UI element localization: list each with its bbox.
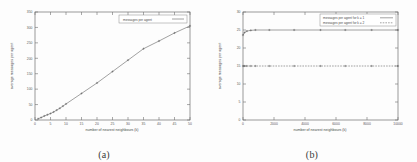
- x-tick-label: 0: [34, 122, 36, 126]
- y-tick-label: 100: [27, 87, 33, 91]
- x-tick-label: 50: [188, 122, 192, 126]
- y-tick-label: 0: [31, 118, 33, 122]
- plot-a: 050100150200250300350 051015202530354045…: [0, 0, 208, 140]
- data-point: [268, 65, 270, 67]
- series-line-a: [38, 26, 190, 119]
- legend-a: messages per agent: [119, 15, 187, 23]
- y-tick-label: 250: [27, 41, 33, 45]
- caption-b: (b): [208, 149, 416, 160]
- data-point: [246, 65, 248, 67]
- x-tick-label: 5: [50, 122, 52, 126]
- x-axis-a: 05101520253035404550: [34, 12, 192, 126]
- data-point: [344, 65, 346, 67]
- y-tick-label: 10: [237, 82, 241, 86]
- y-tick-label: 350: [27, 10, 33, 14]
- data-point: [293, 29, 295, 31]
- figure-container: 050100150200250300350 051015202530354045…: [0, 0, 417, 162]
- x-axis-title-a: number of nearest neighbours (k): [85, 128, 138, 132]
- y-tick-label: 200: [27, 57, 33, 61]
- chart-b-svg: 051015202530 0200040006000800010000 mess…: [208, 0, 416, 140]
- data-point: [397, 65, 399, 67]
- x-tick-label: 10000: [393, 122, 403, 126]
- plot-b: 051015202530 0200040006000800010000 mess…: [208, 0, 416, 140]
- legend-b: messages per agent for k = 1 messages pe…: [320, 14, 396, 26]
- plot-frame-a: [35, 12, 190, 120]
- y-tick-label: 300: [27, 26, 33, 30]
- x-tick-label: 6000: [332, 122, 340, 126]
- y-tick-label: 25: [237, 28, 241, 32]
- x-tick-label: 40: [157, 122, 161, 126]
- x-tick-label: 2000: [270, 122, 278, 126]
- data-point: [254, 65, 256, 67]
- data-point: [46, 114, 48, 116]
- data-point: [293, 65, 295, 67]
- data-point: [49, 112, 51, 114]
- y-tick-label: 150: [27, 72, 33, 76]
- y-axis-b: 051015202530: [237, 10, 398, 122]
- legend-label-b-0: messages per agent for k = 1: [323, 16, 365, 20]
- x-tick-label: 45: [173, 122, 177, 126]
- data-point: [37, 118, 39, 120]
- y-axis-title-a: average messages per agent: [10, 43, 14, 90]
- x-tick-label: 10: [64, 122, 68, 126]
- legend-label-a-0: messages per agent: [123, 18, 152, 22]
- y-tick-label: 5: [239, 100, 241, 104]
- data-point: [250, 29, 252, 31]
- x-tick-label: 0: [242, 122, 244, 126]
- data-point: [319, 29, 321, 31]
- series-points-a: [37, 25, 191, 120]
- subfigure-a: 050100150200250300350 051015202530354045…: [0, 0, 208, 162]
- x-tick-label: 8000: [363, 122, 371, 126]
- x-tick-label: 15: [80, 122, 84, 126]
- subfigure-b: 051015202530 0200040006000800010000 mess…: [208, 0, 416, 162]
- x-tick-label: 25: [111, 122, 115, 126]
- data-point: [250, 65, 252, 67]
- data-point: [189, 25, 191, 27]
- data-point: [40, 116, 42, 118]
- data-point: [254, 29, 256, 31]
- data-point: [268, 29, 270, 31]
- data-point: [371, 65, 373, 67]
- data-point: [371, 29, 373, 31]
- y-tick-label: 20: [237, 46, 241, 50]
- legend-label-b-1: messages per agent for k = 2: [323, 21, 365, 25]
- caption-a: (a): [0, 149, 208, 160]
- y-axis-title-b: average messages per agent: [218, 43, 222, 90]
- data-point: [344, 29, 346, 31]
- x-axis-title-b: number of nearest neighbours (k): [293, 128, 346, 132]
- data-point: [158, 40, 160, 42]
- y-tick-label: 30: [237, 10, 241, 14]
- x-tick-label: 35: [142, 122, 146, 126]
- chart-a-svg: 050100150200250300350 051015202530354045…: [0, 0, 208, 140]
- y-axis-a: 050100150200250300350: [27, 10, 190, 122]
- x-tick-label: 4000: [301, 122, 309, 126]
- y-tick-label: 50: [29, 103, 33, 107]
- data-point: [243, 65, 245, 67]
- x-tick-label: 30: [126, 122, 130, 126]
- data-point: [397, 29, 399, 31]
- data-point: [173, 32, 175, 34]
- x-axis-b: 0200040006000800010000: [242, 12, 403, 126]
- data-point: [319, 65, 321, 67]
- data-point: [43, 115, 45, 117]
- y-tick-label: 15: [237, 64, 241, 68]
- x-tick-label: 20: [95, 122, 99, 126]
- y-tick-label: 0: [239, 118, 241, 122]
